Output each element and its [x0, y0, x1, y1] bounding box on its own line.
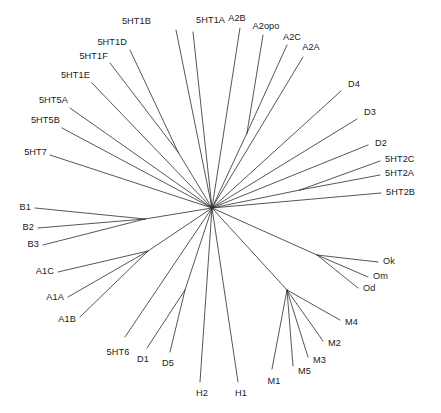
taxon-label-B3: B3 [28, 240, 39, 249]
taxon-label-M2: M2 [328, 339, 341, 348]
internal-branch-n-5ht2 [212, 190, 300, 208]
terminal-branch-M1 [272, 290, 287, 369]
taxon-label-M3: M3 [313, 356, 326, 365]
taxon-label-D3: D3 [364, 108, 376, 117]
terminal-branch-5HT1D [130, 50, 178, 152]
taxon-label-H2: H2 [196, 389, 208, 398]
taxon-label-5HT7: 5HT7 [24, 148, 47, 157]
taxon-label-5HT5B: 5HT5B [31, 116, 60, 125]
terminal-branch-B1 [35, 208, 145, 219]
taxon-label-5HT5A: 5HT5A [39, 96, 68, 105]
taxon-label-M5: M5 [298, 367, 311, 376]
taxon-label-5HT1D: 5HT1D [97, 38, 127, 47]
terminal-branch-5HT5B [62, 128, 212, 208]
terminal-branch-M2 [287, 290, 323, 341]
terminal-branch-A2C [247, 45, 287, 133]
taxon-label-5HT2B: 5HT2B [386, 188, 415, 197]
internal-branch-n-d15 [185, 208, 212, 290]
internal-branch-n-a1 [148, 208, 212, 251]
terminal-branch-D5 [170, 290, 185, 352]
terminal-branch-Ok [317, 255, 378, 262]
terminal-branch-5HT2A [300, 175, 380, 190]
terminal-branch-D4 [212, 91, 341, 208]
terminal-branch-A2B [212, 28, 240, 208]
phylogenetic-tree-figure: 5HT1B5HT1A5HT1D5HT1F5HT1E5HT5A5HT5B5HT7A… [0, 0, 441, 413]
terminal-branch-D1 [147, 290, 185, 348]
terminal-branch-A1C [58, 251, 148, 272]
internal-branch-n-m [212, 208, 287, 290]
taxon-label-A2A: A2A [302, 43, 320, 52]
terminal-branch-5HT2C [300, 161, 380, 190]
internal-branch-n-b [145, 208, 212, 219]
taxon-label-5HT1E: 5HT1E [61, 71, 90, 80]
taxon-label-A2opo: A2opo [252, 22, 279, 31]
taxon-label-5HT6: 5HT6 [107, 348, 130, 357]
taxon-label-H1: H1 [235, 389, 247, 398]
taxon-label-Ok: Ok [383, 257, 395, 266]
terminal-branch-Od [317, 255, 358, 288]
taxon-label-5HT1B: 5HT1B [122, 17, 151, 26]
taxon-label-D4: D4 [348, 80, 360, 89]
taxon-label-B2: B2 [23, 223, 34, 232]
taxon-label-5HT1F: 5HT1F [79, 52, 108, 61]
taxon-label-B1: B1 [20, 203, 31, 212]
terminal-branch-5HT1F [110, 63, 178, 152]
taxon-label-D2: D2 [375, 139, 387, 148]
taxon-label-D5: D5 [162, 359, 174, 368]
terminal-branch-D3 [212, 119, 357, 208]
taxon-label-D1: D1 [137, 355, 149, 364]
taxon-label-5HT1A: 5HT1A [196, 16, 225, 25]
terminal-branch-5HT5A [70, 108, 212, 208]
terminal-branch-5HT1E [92, 83, 212, 208]
terminal-branch-H1 [212, 208, 238, 382]
taxon-label-A2B: A2B [228, 14, 246, 23]
terminal-branch-5HT1B [176, 30, 212, 208]
taxon-label-A1A: A1A [46, 293, 64, 302]
taxon-label-Od: Od [363, 284, 375, 293]
taxon-label-Om: Om [373, 272, 388, 281]
terminal-branch-5HT7 [50, 155, 212, 208]
taxon-label-5HT2C: 5HT2C [385, 155, 415, 164]
taxon-label-M4: M4 [345, 318, 358, 327]
terminal-branch-A2opo [247, 35, 263, 133]
tree-branches-canvas [0, 0, 441, 413]
taxon-label-A2C: A2C [283, 33, 301, 42]
taxon-label-M1: M1 [268, 377, 281, 386]
terminal-branch-5HT2B [212, 193, 381, 208]
terminal-branch-5HT6 [125, 208, 212, 337]
taxon-label-A1C: A1C [36, 267, 54, 276]
terminal-branch-H2 [200, 208, 212, 382]
taxon-label-5HT2A: 5HT2A [385, 169, 414, 178]
terminal-branch-D2 [212, 145, 368, 208]
internal-branch-n-a2 [212, 133, 247, 208]
terminal-branch-A2A [212, 57, 303, 208]
terminal-branch-M5 [287, 290, 293, 366]
internal-branch-n-o [212, 208, 317, 255]
taxon-label-A1B: A1B [58, 315, 76, 324]
